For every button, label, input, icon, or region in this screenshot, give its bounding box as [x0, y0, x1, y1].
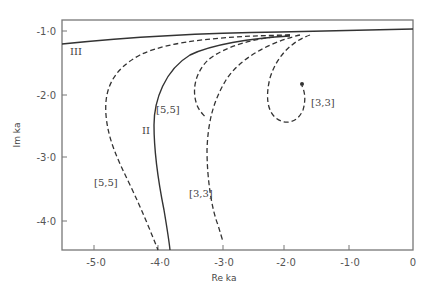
x-tick-label: -5·0: [86, 257, 106, 268]
x-tick-label: -3·0: [214, 257, 234, 268]
y-tick-label: -2·0: [36, 90, 56, 101]
x-tick-label: 0: [410, 257, 416, 268]
x-tick-label: -2·0: [276, 257, 296, 268]
label-curve-III: III: [70, 46, 82, 57]
complex-plane-chart: -5·0 -4·0 -3·0 -2·0 -1·0 0 -1·0 -2·0 -3·…: [0, 0, 432, 289]
label-curve-II: II: [142, 125, 150, 136]
label-55-inner: [5,5]: [156, 104, 180, 115]
curve-33-lower: [207, 35, 300, 242]
y-tick-label: -1·0: [36, 26, 56, 37]
x-tick-label: -1·0: [340, 257, 360, 268]
plot-frame: [62, 20, 413, 250]
y-ticks: [62, 31, 67, 221]
x-axis-title: Re ka: [212, 273, 237, 283]
curve-55-outer: [106, 35, 290, 250]
y-tick-label: -4·0: [36, 216, 56, 227]
label-55-outer: [5,5]: [94, 177, 118, 188]
curve-II: [154, 36, 290, 250]
x-tick-label: -4·0: [150, 257, 170, 268]
spiral-endpoint-marker: [300, 82, 304, 86]
y-axis-title: Im ka: [12, 123, 22, 148]
x-ticks: [94, 245, 349, 250]
label-33-spiral: [3,3]: [311, 97, 335, 108]
label-33-lower: [3,3]: [189, 188, 213, 199]
y-tick-label: -3·0: [36, 152, 56, 163]
curve-33-spiral: [268, 35, 310, 122]
